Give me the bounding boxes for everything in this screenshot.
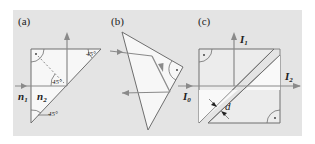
angle-label-top-right: 45°: [86, 50, 96, 58]
panel-c-label: (c): [198, 15, 211, 28]
prism-diagram-figure: (a) 45° 45° n1 n2 45° (b): [0, 0, 315, 144]
angle-label-bottom: 45°: [48, 110, 58, 118]
panel-a-label: (a): [18, 15, 31, 28]
panel-b-label: (b): [111, 15, 124, 28]
right-angle-dot-icon: [35, 53, 37, 55]
right-angle-dot-c1-icon: [203, 54, 205, 56]
angle-label-inner: 45°: [52, 78, 62, 86]
right-angle-dot-b-icon: [176, 69, 178, 71]
gap-label-d: d: [225, 100, 231, 112]
right-angle-dot-c2-icon: [274, 117, 276, 119]
